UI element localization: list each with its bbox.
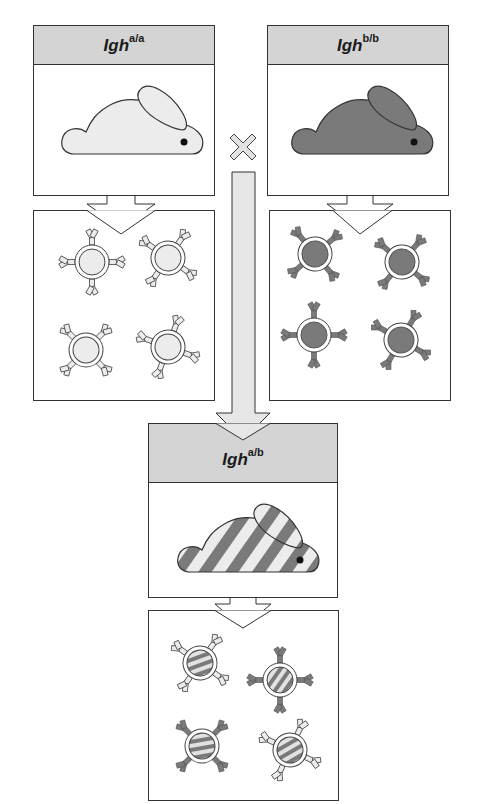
parent-a-cells-panel: [34, 211, 215, 401]
b-cell-striped-dark: [155, 699, 249, 793]
diagram-canvas: [0, 0, 480, 804]
cross-icon: [230, 134, 256, 160]
b-cell-striped-light: [246, 706, 334, 794]
arrow-down-icon: [216, 172, 270, 440]
b-cell-dark: [281, 302, 347, 368]
b-cell-light: [122, 212, 214, 304]
b-cell-light: [125, 304, 210, 389]
parent-b-cells-panel: [268, 207, 450, 400]
b-cell-light: [59, 229, 125, 295]
b-cell-dark: [355, 215, 448, 308]
b-cell-light: [39, 303, 133, 397]
genotype-label-offspring: Igha/b: [148, 448, 338, 470]
b-cell-striped-light: [154, 617, 246, 709]
offspring-cells-panel: [149, 611, 339, 801]
b-cell-dark: [356, 295, 447, 386]
b-cell-striped-dark: [247, 647, 313, 713]
genotype-label-a: Igha/a: [33, 34, 215, 56]
genotype-label-b: Ighb/b: [267, 34, 449, 56]
